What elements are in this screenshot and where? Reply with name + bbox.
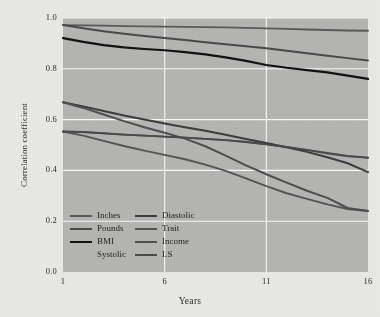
legend-swatch-pounds-icon: [70, 228, 92, 230]
legend-entry-systolic: Systolic: [70, 248, 126, 261]
legend-label: Income: [162, 235, 189, 248]
x-tick-label: 11: [254, 276, 278, 286]
y-tick-label: 0.0: [31, 266, 57, 276]
legend-label: Systolic: [97, 248, 126, 261]
y-tick-label: 0.6: [31, 114, 57, 124]
legend-label: Diastolic: [162, 209, 195, 222]
x-tick-label: 1: [51, 276, 75, 286]
legend-entry-trait: Trait: [135, 222, 195, 235]
legend-label: Trait: [162, 222, 179, 235]
legend-swatch-diastolic-icon: [135, 215, 157, 217]
legend-label: Inches: [97, 209, 121, 222]
legend-swatch-inches-icon: [70, 215, 92, 217]
legend-entry-ls: LS: [135, 248, 195, 261]
y-tick-label: 0.2: [31, 215, 57, 225]
legend-label: Pounds: [97, 222, 124, 235]
legend-column-1: InchesPoundsBMISystolic: [70, 209, 126, 261]
legend-label: LS: [162, 248, 173, 261]
chart-legend: InchesPoundsBMISystolicDiastolicTraitInc…: [70, 209, 195, 261]
y-tick-label: 1.0: [31, 12, 57, 22]
legend-entry-bmi: BMI: [70, 235, 126, 248]
legend-column-2: DiastolicTraitIncomeLS: [135, 209, 195, 261]
legend-entry-inches: Inches: [70, 209, 126, 222]
line-chart-plot: [0, 0, 380, 317]
legend-label: BMI: [97, 235, 114, 248]
y-tick-label: 0.8: [31, 63, 57, 73]
y-tick-label: 0.4: [31, 164, 57, 174]
x-axis-title: Years: [0, 296, 380, 306]
legend-swatch-systolic-icon: [70, 254, 92, 256]
legend-swatch-ls-icon: [135, 254, 157, 256]
legend-swatch-trait-icon: [135, 228, 157, 230]
chart-figure: 0.00.20.40.60.81.0 161116 Correlation co…: [0, 0, 380, 317]
legend-swatch-income-icon: [135, 241, 157, 243]
y-axis-title: Correlation coefficient: [19, 65, 29, 225]
legend-entry-pounds: Pounds: [70, 222, 126, 235]
legend-swatch-bmi-icon: [70, 241, 92, 243]
x-tick-label: 6: [153, 276, 177, 286]
legend-entry-diastolic: Diastolic: [135, 209, 195, 222]
x-tick-label: 16: [356, 276, 380, 286]
legend-entry-income: Income: [135, 235, 195, 248]
